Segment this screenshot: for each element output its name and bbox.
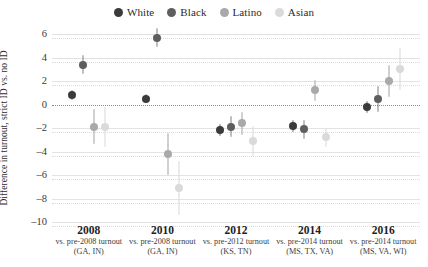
legend-swatch-icon <box>114 8 123 17</box>
data-point[interactable] <box>175 184 183 192</box>
y-tick-label: –4 <box>37 146 48 157</box>
data-point[interactable] <box>164 150 172 158</box>
gridline <box>52 222 420 223</box>
y-tick-label: –2 <box>37 123 48 134</box>
legend-swatch-icon <box>167 8 176 17</box>
y-tick-label: 4 <box>42 52 47 63</box>
legend-swatch-icon <box>220 8 229 17</box>
legend-swatch-icon <box>275 8 284 17</box>
data-point[interactable] <box>79 61 87 69</box>
data-point[interactable] <box>142 95 150 103</box>
gridline-minor <box>52 203 420 204</box>
data-point[interactable] <box>101 123 109 131</box>
data-point[interactable] <box>300 125 308 133</box>
data-point[interactable] <box>385 77 393 85</box>
legend-item-latino[interactable]: Latino <box>220 7 262 18</box>
data-point[interactable] <box>249 137 257 145</box>
y-tick-label: –6 <box>37 170 48 181</box>
data-point[interactable] <box>68 91 76 99</box>
data-point[interactable] <box>322 133 330 141</box>
gridline <box>52 81 420 82</box>
gridline-minor <box>52 179 420 180</box>
y-tick-label: 6 <box>42 29 47 40</box>
gridline-minor <box>52 132 420 133</box>
data-point[interactable] <box>289 122 297 130</box>
data-point[interactable] <box>227 123 235 131</box>
y-tick-label: 2 <box>42 76 47 87</box>
data-point[interactable] <box>238 119 246 127</box>
gridline <box>52 34 420 35</box>
x-axis-year: 2016 <box>340 224 426 237</box>
y-tick-label: 0 <box>42 99 47 110</box>
data-point[interactable] <box>396 65 404 73</box>
legend-label: Latino <box>233 7 262 18</box>
gridline-minor <box>52 38 420 39</box>
legend-label: Asian <box>288 7 314 18</box>
gridline <box>52 199 420 200</box>
y-tick-label: –8 <box>37 193 48 204</box>
x-axis-group-2016: 2016vs. pre-2014 turnout(MS, VA, WI) <box>340 224 426 257</box>
legend-label: White <box>127 7 154 18</box>
y-axis-label: Difference in turnout, strict ID vs. no … <box>0 34 11 222</box>
x-axis-labels: 2008vs. pre-2008 turnout(GA, IN)2010vs. … <box>52 224 420 266</box>
legend-item-white[interactable]: White <box>114 7 154 18</box>
legend-item-asian[interactable]: Asian <box>275 7 314 18</box>
gridline-minor <box>52 156 420 157</box>
x-axis-sublabel-states: (MS, VA, WI) <box>340 247 426 257</box>
gridline <box>52 175 420 176</box>
gridline <box>52 152 420 153</box>
legend-label: Black <box>180 7 206 18</box>
gridline-minor <box>52 85 420 86</box>
y-tick-label: –10 <box>31 217 47 228</box>
x-axis-sublabel-comparison: vs. pre-2014 turnout <box>340 237 426 247</box>
legend-item-black[interactable]: Black <box>167 7 206 18</box>
data-point[interactable] <box>153 34 161 42</box>
data-point[interactable] <box>216 126 224 134</box>
data-point[interactable] <box>374 95 382 103</box>
plot-area: 6420–2–4–6–8–10 <box>52 34 420 222</box>
data-point[interactable] <box>363 103 371 111</box>
gridline-minor <box>52 62 420 63</box>
gridline <box>52 58 420 59</box>
data-point[interactable] <box>311 86 319 94</box>
data-point[interactable] <box>90 123 98 131</box>
chart-legend: WhiteBlackLatinoAsian <box>0 4 428 20</box>
